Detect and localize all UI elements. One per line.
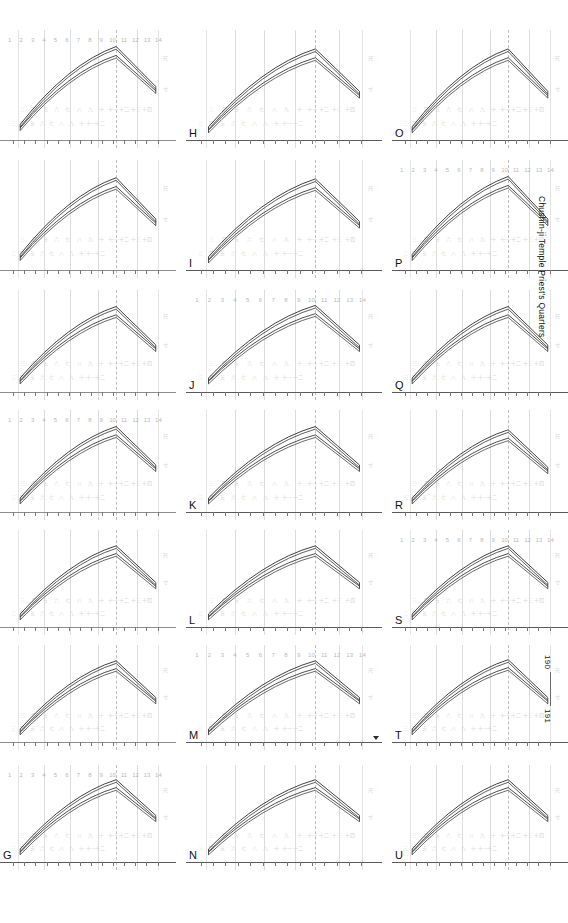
- roof-profile-curve: [186, 30, 382, 148]
- baseline-tick: [287, 270, 288, 274]
- baseline-tick: [483, 392, 484, 396]
- baseline-tick: [113, 862, 114, 866]
- baseline-tick: [238, 742, 239, 746]
- baseline-tick: [337, 270, 338, 274]
- baseline-tick: [349, 392, 350, 396]
- baseline-tick: [146, 512, 147, 516]
- page-number-from: 190: [543, 655, 552, 669]
- page-range-leader: [550, 672, 551, 706]
- baseline-tick: [494, 140, 495, 144]
- baseline-tick: [505, 742, 506, 746]
- baseline-tick: [225, 392, 226, 396]
- baseline-tick: [405, 512, 406, 516]
- roof-profile-curve: [392, 410, 568, 520]
- baseline-tick: [47, 627, 48, 631]
- baseline-ticks: [0, 512, 176, 518]
- baseline-tick: [361, 742, 362, 746]
- baseline-tick: [35, 140, 36, 144]
- baseline-tick: [13, 512, 14, 516]
- baseline-tick: [405, 270, 406, 274]
- baseline-tick: [461, 270, 462, 274]
- baseline-tick: [527, 392, 528, 396]
- panel-label-K: K: [189, 500, 197, 511]
- baseline-tick: [47, 742, 48, 746]
- baseline-tick: [250, 862, 251, 866]
- baseline-tick: [275, 392, 276, 396]
- baseline-tick: [158, 512, 159, 516]
- baseline-tick: [312, 270, 313, 274]
- baseline-tick: [69, 140, 70, 144]
- baseline-tick: [538, 742, 539, 746]
- baseline-tick: [135, 392, 136, 396]
- panel-A1: 1234567891011121314三四五六七八九十十一十二十三十四三四五六七…: [0, 30, 176, 148]
- baseline-tick: [550, 627, 551, 631]
- baseline-tick: [124, 270, 125, 274]
- panel-M: 1234567891011121314三四五六七八九十十一十二十三十四三四五六七…: [186, 645, 382, 750]
- baseline-tick: [450, 270, 451, 274]
- baseline-tick: [550, 140, 551, 144]
- baseline-tick: [47, 862, 48, 866]
- baseline-tick: [80, 270, 81, 274]
- baseline-tick: [80, 742, 81, 746]
- panel-J: 1234567891011121314三四五六七八九十十一十二十三十四三四五六七…: [186, 290, 382, 400]
- baseline-tick: [349, 742, 350, 746]
- baseline-tick: [287, 627, 288, 631]
- baseline-tick: [263, 512, 264, 516]
- baseline-tick: [158, 392, 159, 396]
- baseline-tick: [439, 392, 440, 396]
- baseline-tick: [250, 270, 251, 274]
- baseline-tick: [135, 512, 136, 516]
- baseline-tick: [427, 512, 428, 516]
- baseline-tick: [349, 140, 350, 144]
- roof-profile-curve: [0, 530, 176, 635]
- panel-O: 三四五六七八九十十一十二十三十四三四五六七八九十十一十二尺寸O: [392, 30, 568, 148]
- baseline-tick: [550, 742, 551, 746]
- baseline-tick: [361, 627, 362, 631]
- baseline-tick: [494, 392, 495, 396]
- baseline-tick: [405, 627, 406, 631]
- baseline-tick: [250, 140, 251, 144]
- baseline-tick: [516, 742, 517, 746]
- baseline-tick: [24, 627, 25, 631]
- baseline-tick: [439, 270, 440, 274]
- baseline-ticks: [186, 627, 382, 633]
- roof-profile-curve: [186, 410, 382, 520]
- sheet-caption: Chushin-ji Temple Priest's Quarters: [537, 196, 547, 338]
- baseline-tick: [69, 862, 70, 866]
- baseline-tick: [287, 392, 288, 396]
- baseline-tick: [427, 742, 428, 746]
- baseline-tick: [494, 627, 495, 631]
- baseline-tick: [135, 862, 136, 866]
- baseline-tick: [275, 742, 276, 746]
- baseline-tick: [69, 512, 70, 516]
- baseline-tick: [102, 270, 103, 274]
- baseline-tick: [324, 140, 325, 144]
- baseline-tick: [69, 742, 70, 746]
- baseline-tick: [91, 512, 92, 516]
- roof-profile-curve: [186, 530, 382, 635]
- baseline-tick: [124, 392, 125, 396]
- baseline-tick: [80, 392, 81, 396]
- baseline-tick: [58, 512, 59, 516]
- baseline-tick: [324, 742, 325, 746]
- baseline-tick: [538, 627, 539, 631]
- baseline-tick: [461, 140, 462, 144]
- baseline-tick: [58, 862, 59, 866]
- baseline-tick: [427, 392, 428, 396]
- baseline-tick: [24, 512, 25, 516]
- baseline-tick: [472, 512, 473, 516]
- baseline-tick: [538, 392, 539, 396]
- baseline-tick: [113, 627, 114, 631]
- baseline-tick: [124, 627, 125, 631]
- baseline-tick: [102, 512, 103, 516]
- baseline-tick: [201, 140, 202, 144]
- panel-H: 三四五六七八九十十一十二十三十四三四五六七八九十十一十二尺寸H: [186, 30, 382, 148]
- baseline-tick: [361, 270, 362, 274]
- baseline-tick: [361, 392, 362, 396]
- baseline-tick: [80, 140, 81, 144]
- roof-profile-curve: [186, 645, 382, 750]
- baseline-tick: [13, 627, 14, 631]
- baseline-tick: [124, 512, 125, 516]
- baseline-tick: [505, 392, 506, 396]
- baseline-tick: [135, 140, 136, 144]
